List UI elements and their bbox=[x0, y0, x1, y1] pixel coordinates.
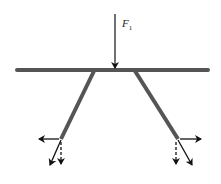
applied-force-label: F1 bbox=[122, 17, 132, 32]
left-leg bbox=[61, 71, 94, 139]
left-resultant-arrow bbox=[50, 140, 61, 165]
right-resultant-arrow bbox=[178, 140, 192, 165]
right-leg bbox=[135, 71, 178, 139]
force-subscript: 1 bbox=[129, 24, 133, 32]
force-diagram bbox=[0, 0, 221, 184]
force-symbol: F bbox=[122, 17, 129, 29]
